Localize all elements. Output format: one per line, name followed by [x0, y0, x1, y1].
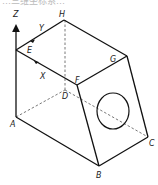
- visible-edges: [16, 20, 148, 166]
- label-e: E: [27, 46, 33, 55]
- edge-FG: [77, 56, 127, 85]
- label-z: Z: [12, 10, 19, 19]
- edge-FB: [77, 85, 99, 166]
- label-d: D: [62, 92, 68, 101]
- label-b: B: [96, 171, 102, 180]
- label-x: X: [39, 72, 46, 81]
- isometric-solid-diagram: Z H Y E X G F D A C B: [0, 0, 158, 185]
- edge-DC: [65, 90, 148, 137]
- edge-HG: [64, 20, 127, 56]
- label-c: C: [149, 139, 155, 148]
- label-h: H: [59, 10, 65, 19]
- label-a: A: [9, 120, 15, 129]
- label-y: Y: [39, 24, 45, 33]
- edge-GC: [127, 56, 148, 137]
- edge-AB: [16, 117, 99, 166]
- edge-AD: [16, 90, 65, 117]
- label-g: G: [110, 55, 116, 64]
- labels: Z H Y E X G F D A C B: [9, 10, 155, 180]
- edge-BC: [99, 137, 148, 166]
- edge-EF: [16, 50, 77, 85]
- label-f: F: [75, 76, 80, 85]
